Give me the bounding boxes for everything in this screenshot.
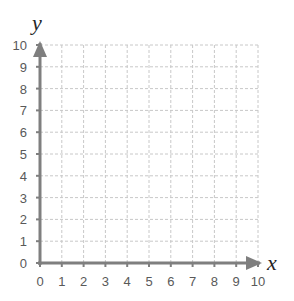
x-tick-label: 4: [124, 274, 131, 289]
x-tick-label: 1: [58, 274, 65, 289]
y-tick-label: 9: [20, 60, 27, 75]
x-tick-label: 2: [80, 274, 87, 289]
y-tick-label: 8: [20, 82, 27, 97]
x-tick-label: 6: [167, 274, 174, 289]
y-tick-label: 0: [20, 256, 27, 271]
x-axis-label: x: [266, 250, 277, 275]
x-tick-label: 9: [233, 274, 240, 289]
x-axis-arrow-icon: [246, 256, 262, 270]
y-tick-labels: 012345678910: [13, 38, 27, 271]
y-axis-label: y: [30, 10, 42, 35]
grid-lines: [40, 45, 258, 263]
x-tick-labels: 012345678910: [36, 274, 265, 289]
y-tick-label: 4: [20, 169, 27, 184]
x-tick-label: 5: [145, 274, 152, 289]
y-tick-label: 3: [20, 191, 27, 206]
y-tick-label: 2: [20, 212, 27, 227]
x-tick-label: 3: [102, 274, 109, 289]
x-tick-label: 0: [36, 274, 43, 289]
y-tick-label: 1: [20, 234, 27, 249]
coordinate-grid: 012345678910 012345678910 x y: [0, 0, 294, 301]
y-tick-label: 7: [20, 103, 27, 118]
y-tick-label: 5: [20, 147, 27, 162]
x-tick-label: 7: [189, 274, 196, 289]
axes: [33, 41, 262, 270]
y-tick-label: 6: [20, 125, 27, 140]
y-tick-label: 10: [13, 38, 27, 53]
x-tick-label: 10: [251, 274, 265, 289]
x-tick-label: 8: [211, 274, 218, 289]
y-axis-arrow-icon: [33, 41, 47, 57]
